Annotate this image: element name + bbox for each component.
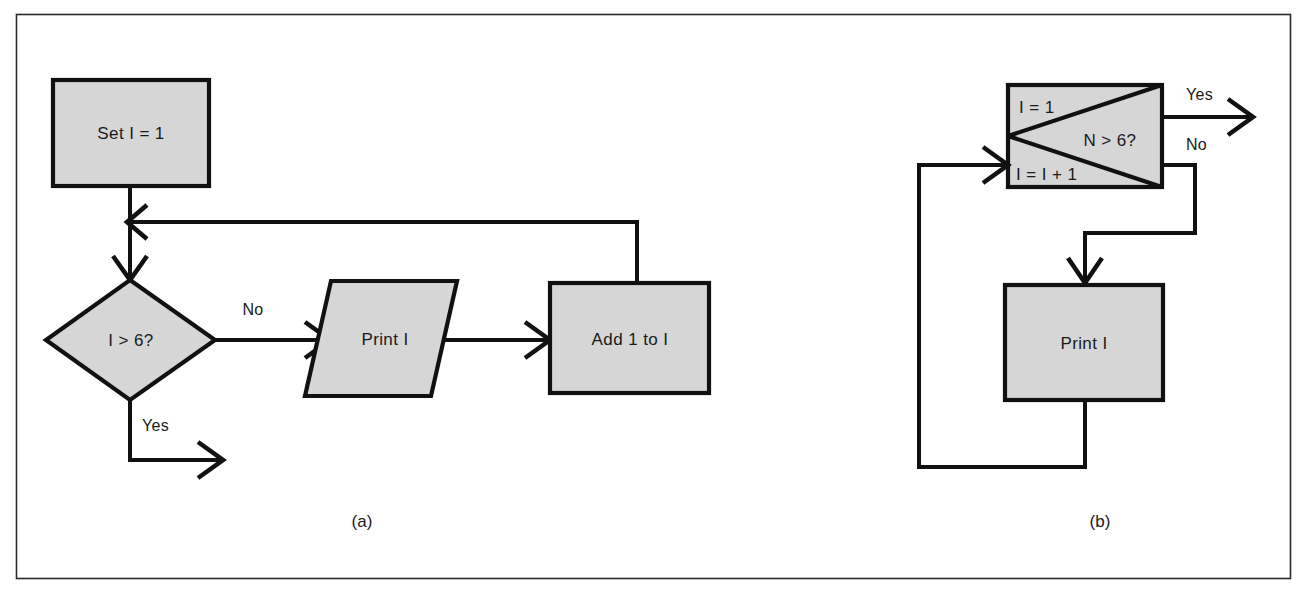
node-loop-box-increment-label: I = I + 1 <box>1016 165 1077 184</box>
caption-b: (b) <box>1090 512 1111 531</box>
node-decision-label: I > 6? <box>108 331 153 350</box>
caption-a: (a) <box>352 512 373 531</box>
node-set-i-1-label: Set I = 1 <box>97 124 164 143</box>
node-add-1-to-i-label: Add 1 to I <box>592 330 669 349</box>
edge-label-yes-a: Yes <box>142 417 169 434</box>
node-print-i-b-label: Print I <box>1060 334 1107 353</box>
edge-feedback-loop-a <box>129 222 637 283</box>
flowchart-figure: Set I = 1 I > 6? No Print I Add 1 to I Y… <box>0 0 1301 605</box>
flowchart-canvas: Set I = 1 I > 6? No Print I Add 1 to I Y… <box>0 0 1301 605</box>
node-loop-box-init-label: I = 1 <box>1019 98 1055 117</box>
node-loop-box-test-label: N > 6? <box>1084 131 1137 150</box>
edge-label-no-a: No <box>242 301 263 318</box>
node-print-i-a-label: Print I <box>361 330 408 349</box>
edge-label-yes-b: Yes <box>1186 86 1213 103</box>
edge-label-no-b: No <box>1186 136 1207 153</box>
